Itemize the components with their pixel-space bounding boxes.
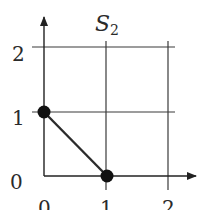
point-0-1 xyxy=(38,106,51,119)
segment-line xyxy=(44,112,107,176)
y-tick-label-1: 1 xyxy=(12,106,25,130)
y-tick-label-2: 2 xyxy=(12,42,25,66)
x-tick-label-1: 1 xyxy=(100,196,113,210)
x-tick-label-2: 2 xyxy=(162,196,175,210)
diagram-title: S2 xyxy=(95,11,119,38)
x-tick-label-0: 0 xyxy=(38,196,51,210)
s2-diagram: S2 2 1 0 0 1 2 xyxy=(0,0,201,210)
point-1-0 xyxy=(101,170,114,183)
grid xyxy=(32,41,175,190)
axes xyxy=(44,17,196,176)
y-tick-label-0: 0 xyxy=(10,170,23,194)
